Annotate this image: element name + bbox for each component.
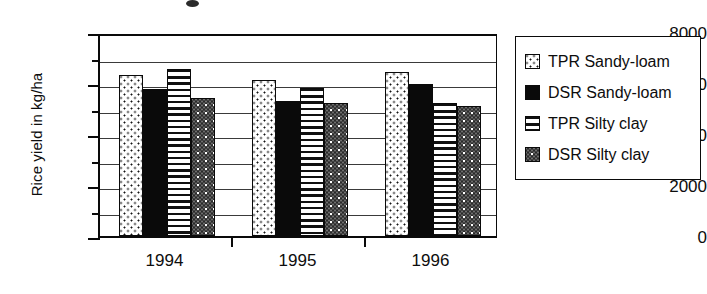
bar-1994-series-3	[191, 98, 215, 236]
legend-item-1: DSR Sandy-loam	[525, 77, 694, 108]
bar-1994-series-1	[143, 89, 167, 236]
x-tick-divider-1	[231, 238, 233, 247]
legend-label-0: TPR Sandy-loam	[548, 53, 670, 70]
bar-1995-series-3	[324, 103, 348, 236]
solid-black-swatch	[525, 85, 540, 100]
bar-1994-series-0	[119, 75, 143, 236]
legend-label-3: DSR Silty clay	[548, 146, 649, 163]
legend-item-0: TPR Sandy-loam	[525, 46, 694, 77]
bar-chart-figure: Rice yield in kg/ha 80006000400020000 19…	[0, 0, 707, 294]
bar-1996-series-2	[433, 103, 457, 236]
checkered-gray-swatch	[525, 147, 540, 162]
x-axis-label-1996: 1996	[371, 252, 491, 270]
bar-1996-series-1	[409, 84, 433, 236]
gridline-7000	[100, 62, 496, 63]
legend-item-2: TPR Silty clay	[525, 108, 694, 139]
legend-label-1: DSR Sandy-loam	[548, 84, 672, 101]
horizontal-lines-swatch	[525, 116, 540, 131]
x-axis-label-1995: 1995	[238, 252, 358, 270]
y-axis-title: Rice yield in kg/ha	[28, 30, 45, 240]
bar-1995-series-2	[300, 88, 324, 236]
y-tick-label-2000: 2000	[623, 178, 707, 195]
dotted-swatch	[525, 54, 540, 69]
bar-1996-series-3	[457, 106, 481, 236]
legend-label-2: TPR Silty clay	[548, 115, 648, 132]
gridline-6000	[100, 87, 496, 88]
scan-artifact-speck	[186, 0, 199, 7]
y-tick-0	[88, 238, 100, 240]
x-axis-label-1994: 1994	[105, 252, 225, 270]
chart-legend: TPR Sandy-loamDSR Sandy-loamTPR Silty cl…	[515, 36, 701, 180]
bar-1994-series-2	[167, 69, 191, 236]
y-tick-label-0: 0	[623, 229, 707, 246]
x-tick-divider-2	[364, 238, 366, 247]
legend-item-3: DSR Silty clay	[525, 139, 694, 170]
bar-1995-series-0	[252, 80, 276, 236]
plot-area	[98, 34, 497, 238]
bar-1996-series-0	[385, 72, 409, 236]
bar-1995-series-1	[276, 101, 300, 236]
